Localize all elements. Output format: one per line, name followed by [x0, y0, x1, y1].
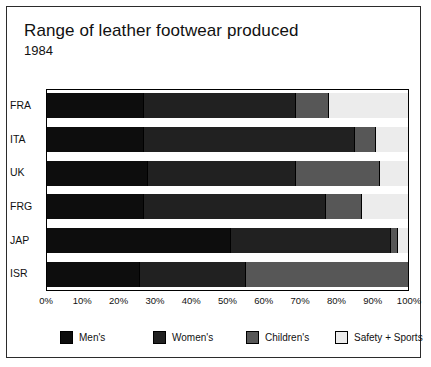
y-axis-label-jap: JAP	[10, 234, 50, 246]
y-axis-label-frg: FRG	[10, 200, 50, 212]
y-axis-labels: FRAITAUKFRGJAPISR	[46, 89, 409, 291]
x-axis-tick-0: 0%	[39, 295, 53, 306]
chart-subtitle: 1984	[24, 43, 53, 58]
legend-label: Children's	[265, 332, 309, 343]
x-axis-tick-30: 30%	[145, 295, 164, 306]
y-axis-label-uk: UK	[10, 166, 50, 178]
legend-item: Children's	[246, 331, 309, 344]
legend-item: Safety + Sports	[335, 331, 423, 344]
legend-swatch-icon	[335, 331, 348, 344]
legend-swatch-icon	[153, 331, 166, 344]
legend-label: Men's	[79, 332, 105, 343]
x-axis-labels: 0%10%20%30%40%50%60%70%80%90%100%	[46, 295, 409, 311]
chart-title: Range of leather footwear produced	[24, 21, 299, 41]
x-axis-tick-10: 10%	[73, 295, 92, 306]
legend-swatch-icon	[246, 331, 259, 344]
x-axis-tick-20: 20%	[109, 295, 128, 306]
legend-label: Women's	[172, 332, 213, 343]
chart-frame: Range of leather footwear produced 1984 …	[6, 6, 421, 358]
x-axis-tick-80: 80%	[327, 295, 346, 306]
x-axis-tick-60: 60%	[254, 295, 273, 306]
y-axis-label-fra: FRA	[10, 99, 50, 111]
legend-swatch-icon	[60, 331, 73, 344]
x-axis-tick-40: 40%	[182, 295, 201, 306]
x-axis-tick-70: 70%	[291, 295, 310, 306]
x-axis-tick-100: 100%	[397, 295, 421, 306]
x-axis-tick-90: 90%	[363, 295, 382, 306]
x-axis-tick-50: 50%	[218, 295, 237, 306]
legend-item: Women's	[153, 331, 213, 344]
y-axis-label-isr: ISR	[10, 267, 50, 279]
y-axis-label-ita: ITA	[10, 133, 50, 145]
legend-label: Safety + Sports	[354, 332, 423, 343]
chart-legend: Men'sWomen'sChildren'sSafety + Sports	[46, 327, 409, 347]
legend-item: Men's	[60, 331, 105, 344]
